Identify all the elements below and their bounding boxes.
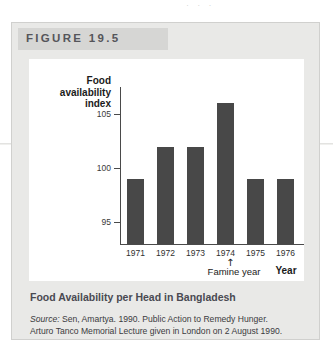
bar-slot	[183, 87, 213, 244]
source-line-1: Source: Sen, Amartya. 1990. Public Actio…	[30, 314, 314, 326]
figure-source: Source: Sen, Amartya. 1990. Public Actio…	[30, 314, 314, 337]
x-axis-tick-label: 1976	[269, 248, 303, 258]
source-line-2: Arturo Tanco Memorial Lecture given in L…	[30, 326, 314, 338]
y-axis-title-line-3: index	[35, 98, 111, 110]
bar-slot	[153, 87, 183, 244]
bar	[247, 179, 264, 244]
bar	[157, 147, 174, 244]
x-axis-tick-label: 1973	[179, 248, 213, 258]
y-axis-tick	[114, 168, 121, 169]
bar	[187, 147, 204, 244]
bar-slot	[123, 87, 153, 244]
y-axis-tick	[114, 222, 121, 223]
page-bleed-artifact: · · ·	[186, 0, 306, 12]
bar	[217, 103, 234, 244]
bar-slot	[273, 87, 303, 244]
y-axis-tick	[114, 114, 121, 115]
bar	[127, 179, 144, 244]
bar-series	[121, 87, 304, 244]
figure-number-label: FIGURE 19.5	[26, 32, 120, 44]
y-axis-title: Food availability index	[35, 75, 111, 110]
x-axis-tick-label: 1975	[239, 248, 273, 258]
figure-panel: FIGURE 19.5 Food availability index 9510…	[11, 22, 320, 340]
x-axis-tick-label: 1971	[119, 248, 153, 258]
y-axis-title-line-1: Food	[35, 75, 111, 87]
y-axis-tick-label: 100	[81, 163, 111, 173]
source-text-1: Sen, Amartya. 1990. Public Action to Rem…	[60, 314, 268, 324]
bar-slot	[213, 87, 243, 244]
bar-slot	[243, 87, 273, 244]
source-keyword: Source:	[30, 314, 60, 324]
figure-caption: Food Availability per Head in Bangladesh	[30, 291, 305, 303]
chart-plot-area: Food availability index 95100105 1971197…	[29, 59, 304, 281]
x-axis-line	[120, 244, 304, 245]
bar	[277, 179, 294, 244]
x-axis-title: Year	[265, 265, 307, 276]
y-axis-tick-label: 105	[81, 109, 111, 119]
y-axis-title-line-2: availability	[35, 87, 111, 99]
x-axis-tick-label: 1972	[149, 248, 183, 258]
y-axis-tick-label: 95	[81, 217, 111, 227]
